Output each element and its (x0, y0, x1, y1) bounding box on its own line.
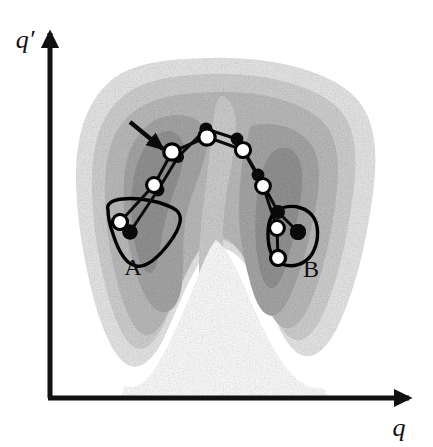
chain-node-open-arrow-target[interactable] (164, 144, 180, 160)
basin-b-node-open[interactable] (271, 251, 286, 266)
landscape-figure: A B (0, 0, 433, 447)
figure-root: A B (0, 0, 433, 447)
chain-node-filled[interactable] (271, 205, 285, 219)
chain-node-open[interactable] (270, 221, 285, 236)
basin-a-node-filled[interactable] (122, 224, 137, 239)
y-axis-label: q′ (16, 25, 35, 54)
chain-node-open[interactable] (199, 129, 215, 145)
basin-b-label: B (303, 256, 319, 282)
chain-node-open[interactable] (235, 142, 250, 157)
basin-b-node-filled[interactable] (290, 224, 306, 240)
chain-node-open[interactable] (147, 178, 162, 193)
x-axis-label: q (393, 413, 406, 442)
basin-a-label: A (124, 254, 142, 280)
chain-node-open[interactable] (256, 179, 271, 194)
